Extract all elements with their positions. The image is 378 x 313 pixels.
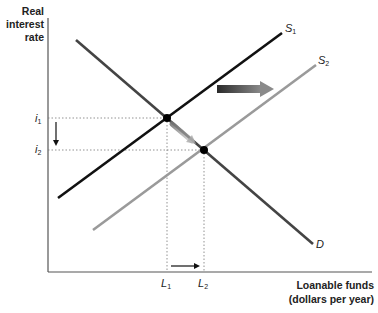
x-axis-label-line-2: (dollars per year): [289, 292, 374, 306]
y-axis-label-line-1: Real: [0, 5, 44, 18]
equilibrium-point-2: [200, 146, 208, 154]
s1-label: S1: [285, 22, 296, 35]
d-label: D: [316, 238, 324, 250]
l2-label: L2: [198, 277, 208, 290]
y-axis-label-line-2: interest: [0, 18, 44, 31]
i2-label: i2: [35, 143, 41, 156]
equilibrium-point-1: [163, 114, 171, 122]
y-axis-label-line-3: rate: [0, 31, 44, 44]
loanable-funds-chart: Real interest rate Loanable funds (dolla…: [0, 0, 378, 313]
x-axis-label: Loanable funds (dollars per year): [289, 278, 374, 306]
supply-shift-arrow: [217, 81, 274, 97]
s2-label: S2: [318, 54, 329, 67]
loanable-funds-right-arrow: [171, 263, 200, 269]
movement-along-demand-arrow: [172, 124, 196, 144]
l1-label: L1: [161, 277, 171, 290]
x-axis-label-line-1: Loanable funds: [289, 278, 374, 292]
guide-lines: [48, 118, 204, 272]
interest-rate-down-arrow: [53, 122, 59, 146]
y-axis-label: Real interest rate: [0, 5, 44, 44]
i1-label: i1: [35, 112, 41, 125]
chart-canvas: [0, 0, 378, 313]
